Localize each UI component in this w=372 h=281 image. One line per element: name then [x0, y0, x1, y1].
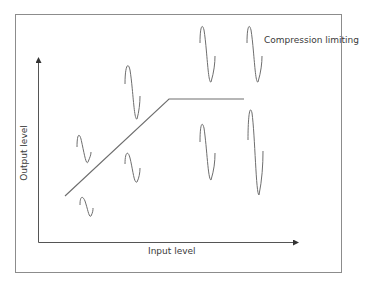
compression-limiting-label: Compression limiting — [264, 35, 359, 45]
sine-wave-icon — [77, 135, 91, 162]
sine-wave-icon — [200, 26, 215, 82]
transfer-curve — [65, 99, 244, 196]
sine-wave-icon — [125, 153, 140, 182]
sine-wave-icon — [200, 124, 215, 180]
diagram-frame — [16, 15, 342, 273]
sine-wave-icon — [247, 26, 262, 82]
sine-wave-icon — [80, 197, 93, 216]
x-axis-label: Input level — [148, 246, 196, 256]
sine-wave-icon — [125, 66, 140, 119]
y-axis-label: Output level — [19, 125, 29, 181]
sine-wave-icon — [248, 110, 263, 195]
